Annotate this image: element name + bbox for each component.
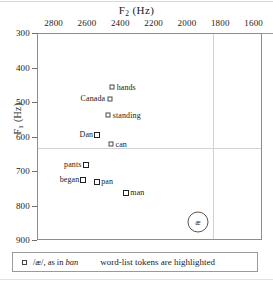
vowel-formant-figure: F2 (Hz) 2800260024002200200018001600 300… [0,0,273,281]
x-axis-spine-extension [262,33,273,34]
y-tick-label-700: 700 [0,166,30,176]
legend-note: word-list tokens are highlighted [100,257,215,267]
crosshair-horizontal [38,148,261,149]
x-tick-label-2200: 2200 [144,18,163,28]
data-point-hands[interactable]: hands [110,85,115,90]
legend-square-marker-icon [22,260,27,265]
square-marker-icon [107,96,112,101]
data-point-label: pants [64,161,81,169]
x-tick-label-2400: 2400 [111,18,130,28]
square-marker-icon [123,190,129,196]
vowel-badge: æ [188,212,209,233]
crosshair-vertical [213,34,214,239]
square-marker-icon [106,113,111,118]
square-marker-icon [109,142,114,147]
top-divider [0,1,273,2]
data-point-can[interactable]: can [109,142,114,147]
x-axis-tick-labels: 2800260024002200200018001600 [0,18,273,30]
data-point-standing[interactable]: standing [106,113,111,118]
y-axis-title-base: F [12,129,23,135]
square-marker-icon [80,177,86,183]
square-marker-icon [83,162,89,168]
x-axis-title: F2 (Hz) [0,4,273,16]
y-tick-label-400: 400 [0,63,30,73]
legend-box: /æ/, as in ban word-list tokens are high… [12,252,258,272]
data-point-label: hands [117,83,136,91]
data-point-label: began [60,176,80,184]
data-point-label: man [130,189,144,197]
legend-symbol-text: /æ/, as in ban [33,257,78,267]
plot-area: handsCanadastandingDancanpantsbeganpanma… [37,33,262,240]
x-tick-label-1800: 1800 [211,18,230,28]
data-point-dan[interactable]: Dan [94,132,100,138]
y-axis-title-unit: (Hz) [12,103,23,125]
y-tick-label-800: 800 [0,201,30,211]
y-axis-title-subscript: 1 [17,125,25,129]
y-tick-label-300: 300 [0,28,30,38]
data-point-began[interactable]: began [80,177,86,183]
y-tick-label-900: 900 [0,235,30,245]
square-marker-icon [110,85,115,90]
plot-canvas: handsCanadastandingDancanpantsbeganpanma… [38,34,261,239]
data-point-pants[interactable]: pants [83,162,89,168]
data-point-label: standing [113,111,141,119]
square-marker-icon [94,179,100,185]
legend-symbol-prefix: /æ/, as in [33,257,66,267]
legend-symbol-word: ban [66,257,79,267]
x-tick-label-2600: 2600 [78,18,97,28]
y-tick-mark-900 [32,240,37,241]
data-point-canada[interactable]: Canada [107,96,112,101]
x-tick-label-2800: 2800 [44,18,63,28]
x-axis-title-subscript: 2 [125,9,129,18]
x-axis-title-unit: (Hz) [129,4,154,16]
data-point-label: can [116,140,127,148]
data-point-pan[interactable]: pan [94,179,100,185]
bottom-divider [0,279,273,280]
data-point-label: Canada [81,95,106,103]
x-tick-label-1600: 1600 [244,18,263,28]
data-point-label: pan [101,178,113,186]
y-axis-title: F1 (Hz) [12,89,23,149]
data-point-man[interactable]: man [123,190,129,196]
square-marker-icon [94,132,100,138]
x-tick-label-2000: 2000 [178,18,197,28]
data-point-label: Dan [80,131,94,139]
